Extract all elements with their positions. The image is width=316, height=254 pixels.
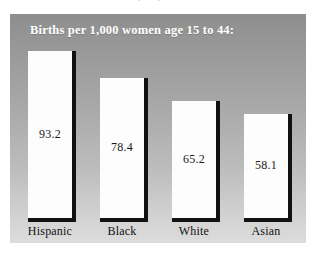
- bar-value-label: 65.2: [172, 152, 216, 167]
- bar-group: 65.2White: [172, 101, 216, 218]
- bar-white[interactable]: 65.2: [172, 101, 216, 218]
- chart-panel: Births per 1,000 women age 15 to 44: 93.…: [10, 14, 306, 243]
- plot-area: 93.2Hispanic78.4Black65.2White58.1Asian: [10, 14, 306, 243]
- bar-group: 58.1Asian: [244, 114, 288, 218]
- category-label-hispanic: Hispanic: [19, 224, 81, 239]
- bar-group: 93.2Hispanic: [28, 51, 72, 218]
- bar-black[interactable]: 78.4: [100, 78, 144, 218]
- bar-group: 78.4Black: [100, 78, 144, 218]
- category-label-black: Black: [91, 224, 153, 239]
- bar-value-label: 58.1: [244, 158, 288, 173]
- category-label-asian: Asian: [235, 224, 297, 239]
- source-caption: Source: U.S. Statistical Abstract (1999)…: [8, 0, 308, 3]
- bar-value-label: 78.4: [100, 140, 144, 155]
- bar-value-label: 93.2: [28, 127, 72, 142]
- bar-hispanic[interactable]: 93.2: [28, 51, 72, 218]
- category-label-white: White: [163, 224, 225, 239]
- bar-asian[interactable]: 58.1: [244, 114, 288, 218]
